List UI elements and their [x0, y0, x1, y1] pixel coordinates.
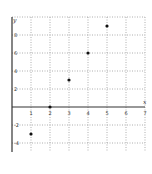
- x-tick-label: 1: [29, 110, 32, 116]
- x-tick-label: 5: [105, 110, 108, 116]
- axes: x y: [12, 16, 147, 152]
- x-tick-label: 7: [143, 110, 146, 116]
- data-point: [105, 24, 108, 27]
- data-point: [67, 78, 70, 81]
- y-tick-label: 4: [14, 68, 17, 74]
- y-tick-label: 6: [14, 50, 17, 56]
- x-tick-label: 6: [124, 110, 127, 116]
- data-points: [29, 24, 108, 135]
- x-tick-label: 3: [67, 110, 70, 116]
- data-point: [86, 51, 89, 54]
- y-axis-label: y: [12, 16, 17, 24]
- y-tick-label: -4: [14, 140, 19, 146]
- data-point: [29, 132, 32, 135]
- data-point: [48, 105, 51, 108]
- y-tick-label: 2: [14, 86, 17, 92]
- x-axis-label: x: [143, 98, 147, 105]
- x-tick-label: 2: [48, 110, 51, 116]
- y-tick-label: -2: [14, 122, 19, 128]
- scatter-chart: x y 12345678642-2-4: [0, 0, 152, 174]
- grid: [12, 17, 145, 152]
- x-tick-label: 4: [86, 110, 89, 116]
- y-tick-label: 8: [14, 32, 17, 38]
